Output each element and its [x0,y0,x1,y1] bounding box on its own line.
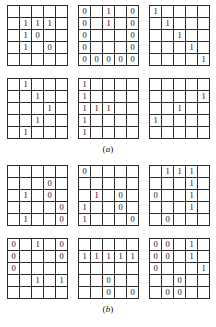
grid-cell: 0 [115,202,127,214]
grid-cell [198,18,210,30]
grid-cell [44,214,56,226]
grid-cell: 0 [56,239,68,251]
grid-row: 111 [8,18,68,30]
grid-row: 00 [79,287,139,299]
grid-cell: 0 [115,190,127,202]
grid-cell: 1 [44,103,56,115]
grid-cell [103,190,115,202]
grid-cell: 1 [103,103,115,115]
grid-cell [8,91,20,103]
grid-cell [56,127,68,139]
grid-row: 1 [8,115,68,127]
grid-cell: 0 [127,42,139,54]
grid-cell [115,287,127,299]
grid-cell [44,127,56,139]
grid-cell [198,202,210,214]
grid-cell: 1 [127,251,139,263]
grid-cell [150,103,162,115]
grid-cell [56,287,68,299]
grid-cell [127,127,139,139]
grid-cell [115,263,127,275]
grid-cell: 1 [186,166,198,178]
grid-cell [186,54,198,66]
grid-cell [56,166,68,178]
grid-cell [127,275,139,287]
grid-row: 1 [79,79,139,91]
grid-cell [174,251,186,263]
grid-cell [20,178,32,190]
grid-cell [91,178,103,190]
grid-cell: 0 [162,239,174,251]
grid-cell [127,263,139,275]
grid-cell: 1 [32,91,44,103]
grid-cell: 1 [79,214,91,226]
grid-cell [44,115,56,127]
grid-cell [44,275,56,287]
grid-row: 10 [79,190,139,202]
grid-cell: 1 [20,214,32,226]
grid-cell [150,42,162,54]
grid-cell [20,6,32,18]
grid-cell [162,190,174,202]
grid-cell [150,287,162,299]
grid-cell [32,79,44,91]
grid-cell: 0 [44,42,56,54]
grid-row-a2: 11111 1111111 111 [0,78,216,139]
grid-cell [150,127,162,139]
grid-cell: 1 [186,178,198,190]
grid-row: 0 [150,214,210,226]
grid-row: 1 [150,30,210,42]
grid-row: 11111 [79,251,139,263]
grid-cell [91,202,103,214]
grid-b2: 0101010 [78,165,139,226]
grid-cell [32,251,44,263]
grid-cell [115,115,127,127]
grid-cell [8,6,20,18]
grid-cell [150,166,162,178]
grid-cell [20,239,32,251]
grid-cell [162,54,174,66]
grid-cell [198,127,210,139]
grid-cell [150,275,162,287]
grid-row [150,79,210,91]
grid-cell [32,214,44,226]
grid-cell [127,91,139,103]
grid-cell: 1 [174,30,186,42]
grid-cell [56,263,68,275]
grid-cell [150,202,162,214]
grid-cell: 1 [103,251,115,263]
grid-cell [127,79,139,91]
grid-cell: 0 [174,275,186,287]
grid-a4: 11111 [7,78,68,139]
grid-cell: 1 [198,263,210,275]
grid-b5: 11111000 [78,238,139,299]
grid-cell [103,214,115,226]
grid-row: 01 [150,263,210,275]
grid-cell: 1 [20,18,32,30]
grid-cell [150,178,162,190]
grid-cell [162,178,174,190]
grid-cell [103,30,115,42]
grid-cell: 0 [91,54,103,66]
grid-cell [91,6,103,18]
grid-row-b2: 01000011 11111000 00100101000 [0,238,216,299]
grid-cell [162,79,174,91]
grid-cell [56,178,68,190]
grid-cell [44,6,56,18]
grid-cell [32,42,44,54]
grid-cell [174,42,186,54]
grid-cell [79,239,91,251]
grid-cell [56,54,68,66]
grid-cell [174,18,186,30]
grid-cell [174,79,186,91]
grid-cell [174,178,186,190]
grid-cell: 1 [103,18,115,30]
grid-cell: 0 [162,214,174,226]
grid-cell [8,79,20,91]
grid-cell [174,239,186,251]
grid-cell [103,42,115,54]
grid-cell: 1 [79,202,91,214]
grid-cell [150,214,162,226]
grid-cell [174,115,186,127]
grid-cell: 1 [186,251,198,263]
